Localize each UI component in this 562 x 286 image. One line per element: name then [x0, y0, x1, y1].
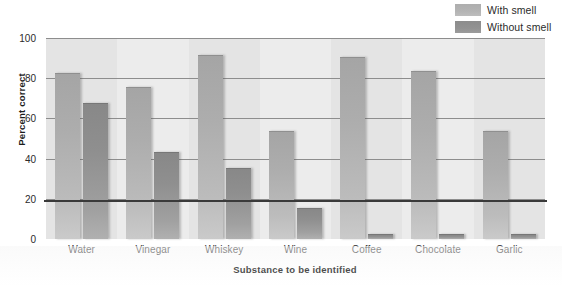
legend-label-without-smell: Without smell [487, 21, 551, 33]
bar [297, 208, 322, 239]
bar [269, 131, 294, 239]
bar [411, 71, 436, 239]
chart-legend: With smell Without smell [455, 2, 560, 36]
x-axis-baseline [44, 200, 547, 202]
x-axis-tick-label: Water [46, 244, 117, 255]
bar-group [46, 38, 117, 239]
x-axis-tick-label: Coffee [331, 244, 402, 255]
y-axis-tick-label: 40 [0, 153, 36, 164]
y-axis-tick-label: 100 [0, 33, 36, 44]
bar [226, 168, 251, 239]
x-axis-tick-label: Garlic [474, 244, 545, 255]
x-axis-tick-label: Wine [260, 244, 331, 255]
legend-label-with-smell: With smell [487, 4, 536, 16]
bar-chart-figure: With smell Without smell Percent correct… [0, 0, 562, 286]
bar [198, 55, 223, 239]
x-axis-title: Substance to be identified [45, 264, 545, 275]
bar [55, 73, 80, 239]
y-axis-tick-label: 0 [0, 234, 36, 245]
bar [126, 87, 151, 239]
y-axis-tick-label: 80 [0, 73, 36, 84]
bar-group [117, 38, 188, 239]
legend-swatch-with-smell [455, 4, 481, 16]
x-axis-tick-label: Chocolate [402, 244, 473, 255]
y-axis-ticks: 020406080100 [0, 38, 42, 239]
bar [511, 234, 536, 239]
bar [83, 103, 108, 239]
bar [340, 57, 365, 239]
x-axis-tick-label: Whiskey [189, 244, 260, 255]
bar-groups [46, 38, 545, 239]
bar [483, 131, 508, 239]
plot-area [46, 38, 545, 239]
bar [154, 152, 179, 239]
bar-group [260, 38, 331, 239]
bar-group [402, 38, 473, 239]
bar-group [189, 38, 260, 239]
bar-group [474, 38, 545, 239]
bar [368, 234, 393, 239]
x-axis-tick-label: Vinegar [117, 244, 188, 255]
legend-item-without-smell: Without smell [455, 19, 560, 34]
y-axis-tick-label: 60 [0, 113, 36, 124]
legend-item-with-smell: With smell [455, 2, 560, 17]
bar-group [331, 38, 402, 239]
x-axis-ticks: WaterVinegarWhiskeyWineCoffeeChocolateGa… [46, 244, 545, 255]
bar [439, 234, 464, 239]
y-axis-tick-label: 20 [0, 193, 36, 204]
legend-swatch-without-smell [455, 21, 481, 33]
